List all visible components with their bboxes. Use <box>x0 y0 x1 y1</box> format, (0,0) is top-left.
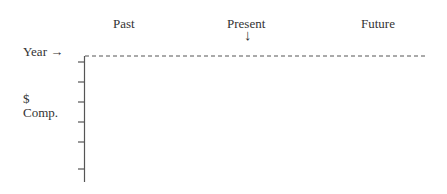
axes-diagram <box>0 0 447 194</box>
y-axis-ticks <box>78 62 84 169</box>
